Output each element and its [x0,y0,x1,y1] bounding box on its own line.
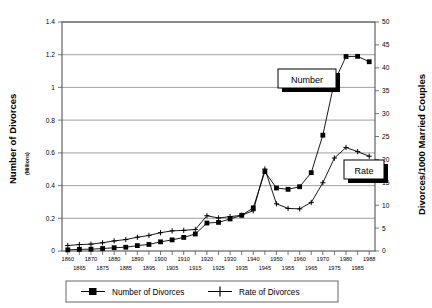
right-tick-25: 25 [382,133,390,140]
legend-label-rate: Rate of Divorces [239,288,300,297]
marker-filled-square [216,220,221,225]
marker-filled-square [251,205,256,210]
left-tick-0-6: 0.6 [46,149,55,156]
annotation-number: Number [278,69,340,92]
filled-square-icon [89,288,97,295]
x-label-1950: 1950 [270,256,282,262]
left-tick-0-8: 0.8 [46,117,55,124]
x-label-1905: 1905 [166,265,178,271]
left-axis-ticks [58,22,62,251]
x-label-1960: 1960 [293,256,305,262]
x-label-1985: 1985 [351,265,363,271]
x-label-1988: 1988 [363,256,375,262]
x-label-1900: 1900 [154,256,166,262]
left-axis-ticklabels: 1.4 1.2 1 0.8 0.6 0.4 0.2 0 [46,18,56,254]
left-axis-title-group: Number of Divorces (Millions) [7,94,30,184]
x-label-1945: 1945 [259,265,271,271]
right-axis-ticklabels: 50 45 40 35 30 25 20 15 10 5 0 [382,18,390,254]
gridlines [62,22,375,218]
x-label-1875: 1875 [96,265,108,271]
marker-filled-square [286,187,291,192]
left-tick-1-0: 1 [51,84,55,91]
marker-filled-square [228,217,233,222]
marker-filled-square [193,232,198,237]
chart-legend: Number of Divorces Rate of Divorces [66,281,338,302]
right-tick-10: 10 [382,202,390,209]
series-rate-of-divorces [65,145,372,248]
left-tick-0-2: 0.2 [46,215,55,222]
x-label-1915: 1915 [189,265,201,271]
right-tick-45: 45 [382,41,390,48]
marker-filled-square [344,54,349,59]
x-label-1935: 1935 [235,265,247,271]
right-tick-0: 0 [382,247,386,254]
marker-filled-square [147,242,152,247]
left-tick-1-2: 1.2 [46,51,55,58]
marker-filled-square [123,245,128,250]
marker-filled-square [320,133,325,138]
marker-filled-square [89,247,94,252]
x-label-1870: 1870 [85,256,97,262]
x-label-1975: 1975 [328,265,340,271]
right-axis-ticks [375,22,379,251]
annotation-rate-label: Rate [354,166,373,176]
x-label-1925: 1925 [212,265,224,271]
right-tick-35: 35 [382,87,390,94]
x-label-1880: 1880 [108,256,120,262]
x-label-1895: 1895 [143,265,155,271]
x-label-1890: 1890 [131,256,143,262]
divorce-trend-chart: Number of Divorces (Millions) Divorces/1… [0,0,432,308]
chart-figure: Number of Divorces (Millions) Divorces/1… [0,0,432,308]
annotation-number-label: Number [291,75,323,85]
x-label-1860: 1860 [62,256,74,262]
marker-filled-square [297,184,302,189]
left-axis-sublabel: (Millions) [24,152,30,175]
x-axis-ticks [68,251,369,255]
right-axis-title: Divorces/1000 Married Couples [416,74,427,215]
right-tick-5: 5 [382,225,386,232]
marker-filled-square [239,213,244,218]
marker-filled-square [181,235,186,240]
marker-filled-square [77,247,82,252]
x-label-1865: 1865 [73,265,85,271]
x-label-1970: 1970 [317,256,329,262]
marker-filled-square [170,237,175,242]
marker-filled-square [262,169,267,174]
marker-filled-square [100,246,105,251]
marker-filled-square [309,170,314,175]
line-rate-of-divorces [68,147,369,245]
left-tick-1-4: 1.4 [46,18,55,25]
marker-filled-square [158,239,163,244]
marker-filled-square [274,186,279,191]
marker-filled-square [367,59,372,64]
right-tick-30: 30 [382,110,390,117]
x-label-1920: 1920 [201,256,213,262]
left-axis-title: Number of Divorces [7,94,18,184]
left-tick-0: 0 [51,247,55,254]
x-label-1955: 1955 [282,265,294,271]
x-label-1930: 1930 [224,256,236,262]
marker-filled-square [65,247,70,252]
x-label-1940: 1940 [247,256,259,262]
right-tick-40: 40 [382,64,390,71]
x-label-1980: 1980 [340,256,352,262]
marker-filled-square [135,243,140,248]
left-tick-0-4: 0.4 [46,182,55,189]
legend-label-number: Number of Divorces [112,288,184,297]
marker-filled-square [205,221,210,226]
x-axis-ticklabels: 1860186518701875188018851890189519001905… [62,256,376,271]
x-label-1885: 1885 [120,265,132,271]
x-label-1910: 1910 [177,256,189,262]
annotation-rate: Rate [344,160,388,183]
marker-filled-square [112,245,117,250]
x-label-1965: 1965 [305,265,317,271]
marker-filled-square [355,54,360,59]
right-tick-50: 50 [382,18,390,25]
